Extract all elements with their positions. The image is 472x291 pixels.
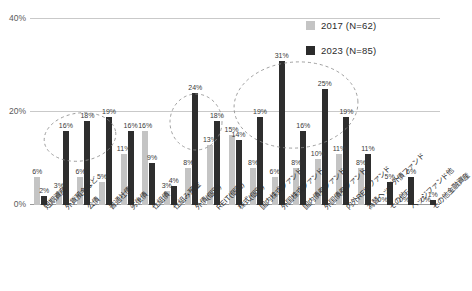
bar-value-label-2023: 19% <box>253 108 267 115</box>
legend-item-2023: 2023 (N=85) <box>306 43 438 58</box>
bar-group: 11%16% <box>121 18 134 205</box>
bar-value-label-2023: 9% <box>145 154 159 161</box>
bar-value-label-2017: 6% <box>30 168 44 175</box>
bar-value-label-2017: 13% <box>203 136 217 143</box>
legend-item-2017: 2017 (N=62) <box>306 18 438 33</box>
bar-value-label-2023: 18% <box>210 112 224 119</box>
bar-value-label-2023: 24% <box>188 84 202 91</box>
bar-group: 3%4% <box>164 18 177 205</box>
y-tick-40: 40% <box>0 14 26 22</box>
bar-value-label-2023: 25% <box>318 80 332 87</box>
bar-value-label-2023: 4% <box>167 177 181 184</box>
bar-value-label-2017: 11% <box>117 145 131 152</box>
legend-swatch-2017 <box>306 21 315 30</box>
bar-value-label-2017: 8% <box>289 159 303 166</box>
bar-value-label-2017: 8% <box>181 159 195 166</box>
bar-group: 6%2% <box>34 18 47 205</box>
bar-value-label-2023: 19% <box>339 108 353 115</box>
bar-value-label-2017: 11% <box>332 145 346 152</box>
legend-label-2023: 2023 (N=85) <box>321 45 376 56</box>
x-axis-labels: 短期資産外貨預金など公債普通社債劣後債仕組債仕組み預金外債(個別)REIT(個別… <box>30 206 446 291</box>
bar-value-label-2017: 6% <box>73 168 87 175</box>
bar-group: 6%31% <box>272 18 285 205</box>
bar-value-label-2023: 16% <box>59 122 73 129</box>
bar-value-label-2017: 8% <box>246 159 260 166</box>
bar-value-label-2023: 19% <box>102 108 116 115</box>
y-tick-0: 0% <box>0 200 26 208</box>
bar-value-label-2023: 14% <box>232 131 246 138</box>
bar-group: 8%19% <box>250 18 263 205</box>
bar-group: 15%14% <box>229 18 242 205</box>
legend: 2017 (N=62) 2023 (N=85) <box>306 18 438 68</box>
bar-value-label-2023: 2% <box>37 187 51 194</box>
bar-value-label-2023: 16% <box>124 122 138 129</box>
bar-value-label-2017: 16% <box>138 122 152 129</box>
bar-group: 16%9% <box>142 18 155 205</box>
bar-2023 <box>149 163 155 205</box>
bar-value-label-2017: 5% <box>95 173 109 180</box>
bar-2023 <box>106 117 112 205</box>
y-tick-20: 20% <box>0 107 26 115</box>
legend-label-2017: 2017 (N=62) <box>321 20 376 31</box>
bar-value-label-2023: 18% <box>80 112 94 119</box>
bar-group: 6%18% <box>77 18 90 205</box>
bar-group: 3%16% <box>56 18 69 205</box>
bar-group: 8%24% <box>185 18 198 205</box>
bar-group: 5%19% <box>99 18 112 205</box>
bar-value-label-2023: 11% <box>361 145 375 152</box>
bar-value-label-2017: 6% <box>268 168 282 175</box>
bar-value-label-2023: 31% <box>275 52 289 59</box>
legend-swatch-2023 <box>306 46 315 55</box>
bar-group: 13%18% <box>207 18 220 205</box>
bar-value-label-2023: 16% <box>296 122 310 129</box>
bar-value-label-2017: 10% <box>311 150 325 157</box>
cropped-title <box>0 0 446 7</box>
